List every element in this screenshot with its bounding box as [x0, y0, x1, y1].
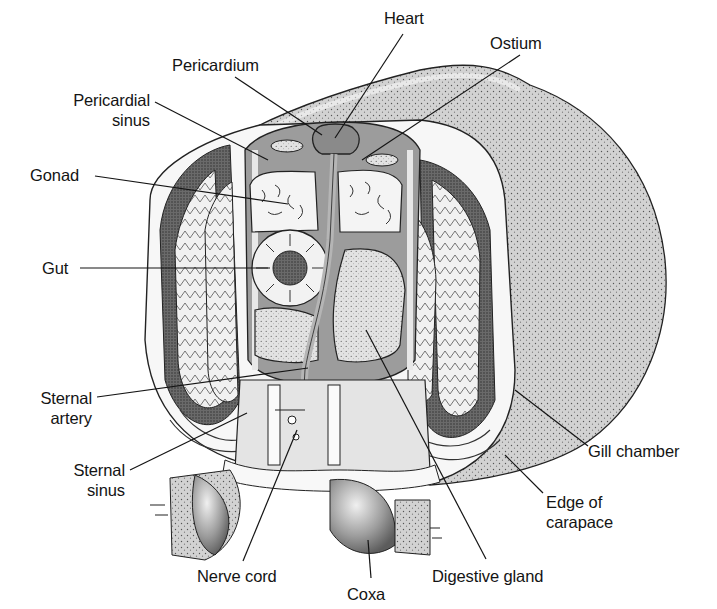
- coxa-right: [330, 479, 442, 555]
- ostium-shape: [271, 140, 303, 152]
- label-gill-chamber-text: Gill chamber: [588, 441, 679, 461]
- label-nerve-cord: Nerve cord: [197, 566, 277, 586]
- label-pericardium-text: Pericardium: [172, 55, 259, 75]
- label-gut: Gut: [42, 258, 68, 278]
- label-edge-of-carapace: Edge of carapace: [546, 492, 613, 532]
- label-ostium-text: Ostium: [490, 33, 542, 53]
- label-gut-text: Gut: [42, 258, 68, 278]
- label-edge-of-carapace-line2: carapace: [546, 512, 613, 532]
- label-pericardial-sinus-line2: sinus: [30, 110, 150, 130]
- label-gonad-text: Gonad: [30, 165, 79, 185]
- gonad-right: [338, 170, 402, 232]
- label-pericardial-sinus-line1: Pericardial: [30, 90, 150, 110]
- label-sternal-artery-line2: artery: [10, 408, 92, 428]
- coxa-left: [150, 470, 240, 560]
- label-edge-of-carapace-line1: Edge of: [546, 492, 613, 512]
- label-heart-text: Heart: [384, 8, 424, 28]
- body-cavity: [245, 122, 420, 420]
- label-pericardium: Pericardium: [172, 55, 259, 75]
- label-digestive-gland-text: Digestive gland: [432, 566, 543, 586]
- sternal-region: [222, 380, 440, 491]
- label-digestive-gland: Digestive gland: [432, 566, 543, 586]
- label-pericardial-sinus: Pericardial sinus: [30, 90, 150, 130]
- label-ostium: Ostium: [490, 33, 542, 53]
- label-sternal-artery: Sternal artery: [10, 388, 92, 428]
- label-sternal-artery-line1: Sternal: [10, 388, 92, 408]
- label-nerve-cord-text: Nerve cord: [197, 566, 277, 586]
- label-coxa: Coxa: [347, 584, 385, 604]
- label-heart: Heart: [384, 8, 424, 28]
- label-sternal-sinus-line2: sinus: [40, 480, 125, 500]
- gonad-left: [250, 171, 318, 232]
- heart-shape: [313, 124, 360, 154]
- label-sternal-sinus-line1: Sternal: [40, 460, 125, 480]
- label-gonad: Gonad: [30, 165, 79, 185]
- label-coxa-text: Coxa: [347, 584, 385, 604]
- label-sternal-sinus: Sternal sinus: [40, 460, 125, 500]
- digestive-gland-shape: [333, 249, 405, 362]
- label-gill-chamber: Gill chamber: [588, 441, 679, 461]
